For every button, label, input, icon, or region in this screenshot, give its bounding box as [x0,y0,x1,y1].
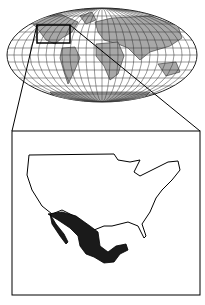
locator-map [0,0,205,305]
world-globe [0,0,205,110]
